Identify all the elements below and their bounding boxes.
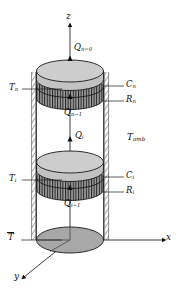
top-cap-disk xyxy=(37,60,104,82)
flux-top-base: Q xyxy=(74,42,81,52)
capacitance-label-n: Cn xyxy=(126,80,136,89)
T-base-overbar-wrap: T xyxy=(8,233,14,242)
figure-canvas: z x y Qn=0 Qn−1 Qi Qi−1 Tn Ti T Tamb Cn … xyxy=(0,0,179,292)
resistance-label-i: Ri xyxy=(126,186,134,195)
flux-label-n-minus-1: Qn−1 xyxy=(64,108,82,117)
temperature-label-base: T xyxy=(8,233,14,242)
C-n-sub: n xyxy=(133,83,136,89)
flux-label-i: Qi xyxy=(75,131,84,140)
flux-n1-sub: n−1 xyxy=(71,111,82,117)
node-n-element xyxy=(37,60,104,110)
insulation-wall-right xyxy=(105,72,109,240)
flux-arrow-top xyxy=(67,56,72,62)
axis-label-y: y xyxy=(14,272,19,281)
node-i-element xyxy=(37,151,104,201)
T-amb-sub: amb xyxy=(133,136,145,142)
capacitance-label-i: Ci xyxy=(126,171,134,180)
R-n-sub: n xyxy=(132,98,135,104)
insulation-wall-left xyxy=(32,72,36,240)
flux-top-sub: n=0 xyxy=(81,46,92,52)
T-i-sub: i xyxy=(15,177,17,183)
T-base-base: T xyxy=(8,232,14,242)
resistance-label-n: Rn xyxy=(126,95,136,104)
flux-i1-sub: i−1 xyxy=(71,202,80,208)
flux-i1-base: Q xyxy=(64,198,71,208)
temperature-label-ambient: Tamb xyxy=(127,133,145,143)
axis-label-z: z xyxy=(66,12,71,21)
axis-label-x: x xyxy=(166,233,171,242)
T-n-sub: n xyxy=(15,86,18,92)
flux-i-sub: i xyxy=(82,134,84,140)
C-i-sub: i xyxy=(133,174,135,180)
overbar xyxy=(7,232,14,233)
temperature-label-n: Tn xyxy=(9,83,18,92)
flux-n1-base: Q xyxy=(64,107,71,117)
flux-label-top: Qn=0 xyxy=(74,43,92,52)
flux-arrow-i xyxy=(67,136,72,142)
flux-i-base: Q xyxy=(75,130,82,140)
middle-cap-disk xyxy=(37,151,104,173)
temperature-label-i: Ti xyxy=(9,174,16,183)
flux-label-i-minus-1: Qi−1 xyxy=(64,199,80,208)
R-i-sub: i xyxy=(132,189,134,195)
